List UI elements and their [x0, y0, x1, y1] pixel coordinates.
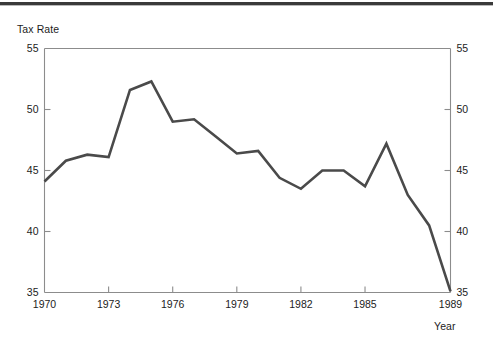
y-tick-label-left-40: 40 [13, 225, 39, 237]
y-tick-label-right-40: 40 [457, 225, 483, 237]
x-tick-label-1973: 1973 [87, 298, 131, 310]
chart-plot-svg [0, 0, 493, 344]
y-tick-label-left-35: 35 [13, 286, 39, 298]
axis-tick-marks [45, 110, 451, 293]
y-tick-label-left-55: 55 [13, 42, 39, 54]
tax-rate-line-chart: Tax Rate Year 35404550553540455055197019… [0, 0, 493, 344]
x-tick-label-1982: 1982 [279, 298, 323, 310]
y-tick-label-right-50: 50 [457, 103, 483, 115]
tax-rate-line [45, 81, 451, 291]
axis-frame [45, 49, 451, 293]
data-series-group [45, 81, 451, 291]
x-tick-label-1979: 1979 [215, 298, 259, 310]
x-tick-label-1985: 1985 [343, 298, 387, 310]
chart-page: Tax Rate Year 35404550553540455055197019… [0, 0, 493, 344]
x-tick-label-1989: 1989 [429, 298, 473, 310]
y-tick-label-right-55: 55 [457, 42, 483, 54]
y-tick-label-left-50: 50 [13, 103, 39, 115]
y-tick-label-left-45: 45 [13, 164, 39, 176]
y-tick-label-right-45: 45 [457, 164, 483, 176]
x-tick-label-1976: 1976 [151, 298, 195, 310]
x-tick-label-1970: 1970 [23, 298, 67, 310]
y-tick-label-right-35: 35 [457, 286, 483, 298]
